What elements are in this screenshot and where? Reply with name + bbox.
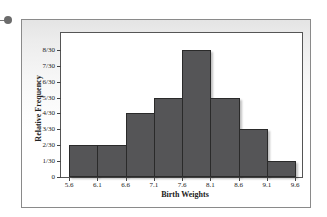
histogram-bar (182, 50, 211, 177)
y-tick (57, 113, 61, 114)
histogram-bar (69, 145, 98, 177)
x-tick-label: 8.6 (229, 181, 249, 189)
x-tick-label: 7.6 (172, 181, 192, 189)
histogram-bar (154, 98, 183, 178)
x-tick-label: 6.1 (87, 181, 107, 189)
y-tick (57, 50, 61, 51)
x-tick-label: 8.1 (200, 181, 220, 189)
y-tick (57, 66, 61, 67)
x-axis-title: Birth Weights (140, 190, 230, 199)
histogram-bar (97, 145, 126, 177)
y-tick-label: 1/30 (29, 157, 55, 165)
x-tick-label: 9.6 (285, 181, 305, 189)
y-tick-label: 0 (29, 173, 55, 181)
y-tick (57, 129, 61, 130)
y-tick (57, 145, 61, 146)
histogram-bar (267, 161, 296, 177)
bullet-marker (4, 16, 12, 24)
x-tick-label: 6.6 (116, 181, 136, 189)
y-tick (57, 161, 61, 162)
x-tick-label: 5.6 (59, 181, 79, 189)
histogram-bar (210, 98, 239, 178)
x-tick-label: 9.1 (257, 181, 277, 189)
x-tick-label: 7.1 (144, 181, 164, 189)
y-axis-title: Relative Frequency (34, 69, 43, 149)
histogram-bar (239, 129, 268, 177)
histogram-bar (126, 113, 155, 177)
y-tick-label: 8/30 (29, 46, 55, 54)
y-tick (57, 82, 61, 83)
y-tick (57, 98, 61, 99)
y-tick (57, 177, 61, 178)
